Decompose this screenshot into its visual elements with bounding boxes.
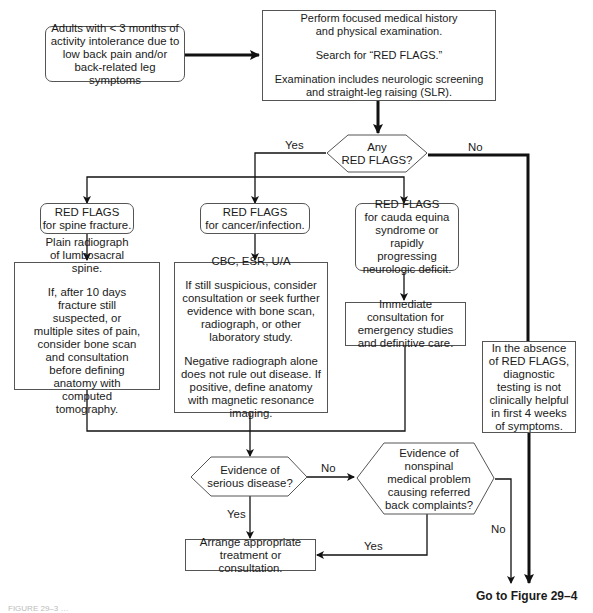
flag-spine-fracture: RED FLAGS for spine fracture.	[40, 203, 134, 234]
yes-label-nonspinal: Yes	[364, 540, 383, 552]
flag-cancer-infection-line-1: RED FLAGS	[223, 206, 288, 219]
flag-spine-fracture-line-1: RED FLAGS	[55, 206, 120, 219]
assessment-line-2: Search for “RED FLAGS.”	[316, 49, 443, 62]
flag-cancer-infection: RED FLAGS for cancer/infection.	[200, 203, 310, 234]
action-spine-fracture-p2: If, after 10 days fracture still suspect…	[18, 286, 156, 416]
action-spine-fracture: Plain radiograph of lumbosacral spine. I…	[14, 262, 160, 390]
assessment-node: Perform focused medical history and phys…	[262, 10, 496, 101]
action-cancer-infection-p2: If still suspicious, consider consultati…	[178, 279, 324, 344]
action-cancer-infection: CBC, ESR, U/A If still suspicious, consi…	[174, 262, 328, 413]
no-flags-note-text: In the absence of RED FLAGS, diagnostic …	[486, 342, 572, 433]
action-cauda-equina-p1: Immediate consultation for emergency stu…	[349, 298, 462, 350]
arrow-yes-to-cancer	[255, 153, 326, 203]
yes-label-red-flags: Yes	[285, 139, 304, 151]
action-spine-fracture-p1: Plain radiograph of lumbosacral spine.	[18, 236, 156, 275]
start-node-text: Adults with < 3 months of activity intol…	[50, 22, 180, 87]
flag-cancer-infection-line-2: for cancer/infection.	[205, 219, 304, 232]
decision-red-flags-line-2: RED FLAGS?	[342, 154, 413, 167]
action-cancer-infection-p3: Negative radiograph alone does not rule …	[178, 355, 324, 420]
flag-cauda-equina-line-2: for cauda equina syndrome or rapidly pro…	[360, 211, 454, 276]
decision-nonspinal: Evidence of nonspinal medical problem ca…	[382, 447, 476, 511]
start-node: Adults with < 3 months of activity intol…	[45, 26, 185, 82]
goto-figure-link: Go to Figure 29–4	[476, 589, 577, 603]
assessment-line-3: Examination includes neurologic screenin…	[268, 73, 490, 99]
no-label-nonspinal: No	[491, 523, 506, 535]
decision-serious-disease: Evidence of serious disease?	[205, 457, 295, 496]
flag-cauda-equina: RED FLAGS for cauda equina syndrome or r…	[355, 203, 459, 271]
decision-red-flags: Any RED FLAGS?	[335, 135, 419, 172]
treatment-text: Arrange appropriate treatment or consult…	[189, 536, 312, 575]
decision-nonspinal-text: Evidence of nonspinal medical problem ca…	[384, 447, 474, 512]
decision-serious-line-1: Evidence of	[220, 464, 280, 477]
no-flags-note: In the absence of RED FLAGS, diagnostic …	[482, 341, 576, 433]
flag-cauda-equina-line-1: RED FLAGS	[375, 198, 440, 211]
treatment-node: Arrange appropriate treatment or consult…	[185, 539, 316, 571]
yes-label-serious: Yes	[227, 508, 246, 520]
no-label-serious: No	[321, 462, 336, 474]
figure-caption: FIGURE 29–3 …	[8, 604, 68, 613]
decision-red-flags-line-1: Any	[367, 141, 387, 154]
assessment-line-1: Perform focused medical history and phys…	[268, 12, 490, 38]
no-label-red-flags: No	[468, 141, 483, 153]
action-cancer-infection-p1: CBC, ESR, U/A	[211, 255, 290, 268]
decision-serious-line-2: serious disease?	[207, 477, 292, 490]
flag-spine-fracture-line-2: for spine fracture.	[43, 219, 132, 232]
arrow-to-fracture	[87, 177, 255, 203]
action-cauda-equina: Immediate consultation for emergency stu…	[345, 302, 466, 346]
